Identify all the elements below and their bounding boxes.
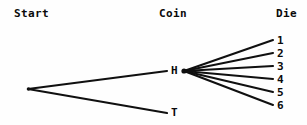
column-header-die: Die <box>276 8 297 20</box>
edge-root-to-heads <box>28 71 167 89</box>
leaf-label-die-6: 6 <box>277 100 284 111</box>
node-label-tails: T <box>171 107 178 118</box>
column-header-coin: Coin <box>159 8 187 20</box>
column-header-start: Start <box>14 8 49 20</box>
edge-root-to-tails <box>28 89 167 113</box>
tree-diagram: Start Coin Die H T 1 2 3 4 5 6 <box>0 0 307 125</box>
leaf-label-die-1: 1 <box>277 35 284 46</box>
leaf-label-die-5: 5 <box>277 87 284 98</box>
leaf-label-die-3: 3 <box>277 61 284 72</box>
leaf-label-die-2: 2 <box>277 48 284 59</box>
leaf-label-die-4: 4 <box>277 74 284 85</box>
node-label-heads: H <box>171 65 178 76</box>
